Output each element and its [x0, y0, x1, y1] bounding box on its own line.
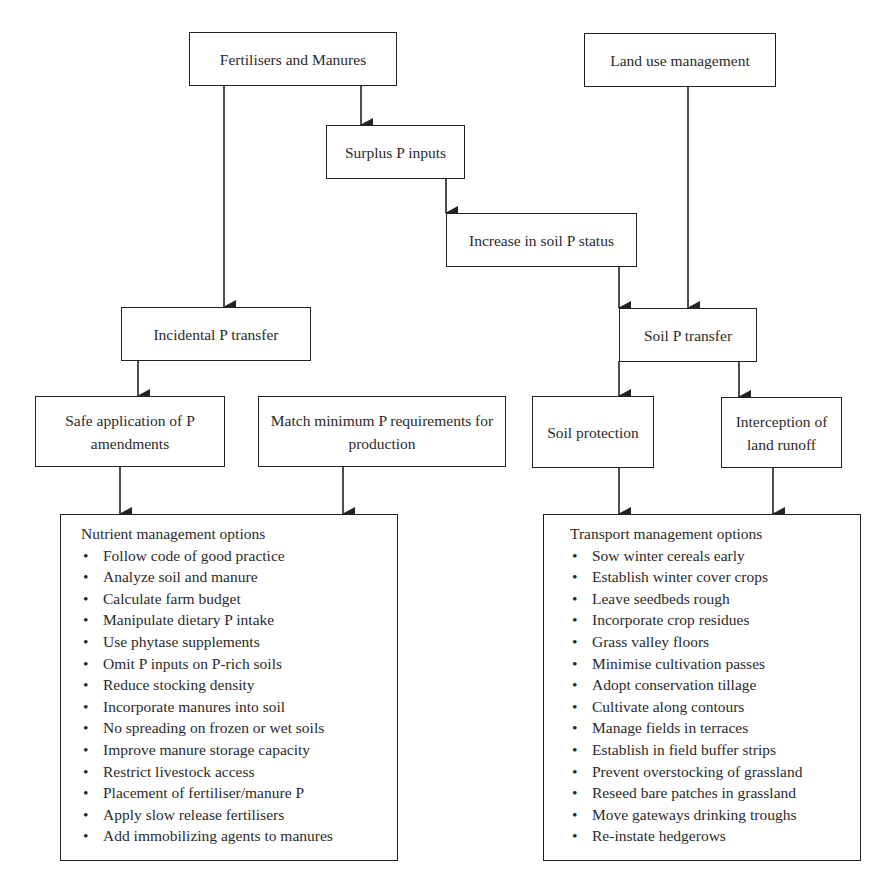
node-incidental-p-transfer: Incidental P transfer: [121, 307, 311, 361]
node-label: Increase in soil P status: [469, 229, 614, 252]
node-fertilisers-and-manures: Fertilisers and Manures: [189, 32, 397, 86]
bullet-icon: •: [83, 566, 88, 588]
node-label: Incidental P transfer: [153, 323, 278, 346]
node-increase-soil-p-status: Increase in soil P status: [446, 213, 637, 267]
bullet-icon: •: [83, 717, 88, 739]
bullet-icon: •: [572, 674, 577, 696]
node-label: Safe application of P amendments: [52, 409, 208, 455]
node-label: Fertilisers and Manures: [220, 48, 366, 71]
node-soil-protection: Soil protection: [532, 396, 654, 468]
list-item: •Improve manure storage capacity: [81, 739, 387, 761]
bullet-icon: •: [572, 609, 577, 631]
bullet-icon: •: [83, 804, 88, 826]
node-label: Soil protection: [547, 421, 639, 444]
bullet-icon: •: [83, 674, 88, 696]
node-label: Surplus P inputs: [345, 141, 446, 164]
list-item: •Follow code of good practice: [81, 545, 387, 567]
node-label: Interception of land runoff: [730, 410, 833, 456]
list-item: •Apply slow release fertilisers: [81, 804, 387, 826]
list-item: •Restrict livestock access: [81, 761, 387, 783]
list-item: •Leave seedbeds rough: [570, 588, 850, 610]
list-item: •Move gateways drinking troughs: [570, 804, 850, 826]
list-item: •Prevent overstocking of grassland: [570, 761, 850, 783]
bullet-icon: •: [83, 739, 88, 761]
nutrient-box-title: Nutrient management options: [81, 523, 387, 545]
bullet-icon: •: [572, 653, 577, 675]
bullet-icon: •: [572, 717, 577, 739]
bullet-icon: •: [572, 696, 577, 718]
bullet-icon: •: [572, 739, 577, 761]
bullet-icon: •: [83, 653, 88, 675]
list-item: •Cultivate along contours: [570, 696, 850, 718]
list-item: •Calculate farm budget: [81, 588, 387, 610]
list-item: •Analyze soil and manure: [81, 566, 387, 588]
bullet-icon: •: [83, 761, 88, 783]
transport-options-list: •Sow winter cereals early •Establish win…: [570, 545, 850, 847]
bullet-icon: •: [572, 761, 577, 783]
node-safe-application: Safe application of P amendments: [35, 396, 225, 467]
bullet-icon: •: [572, 545, 577, 567]
node-land-use-management: Land use management: [584, 33, 776, 87]
list-item: •Use phytase supplements: [81, 631, 387, 653]
list-item: •No spreading on frozen or wet soils: [81, 717, 387, 739]
node-label: Match minimum P requirements for product…: [265, 409, 499, 455]
list-item: •Sow winter cereals early: [570, 545, 850, 567]
transport-management-box: Transport management options •Sow winter…: [543, 514, 861, 861]
list-item: •Re-instate hedgerows: [570, 825, 850, 847]
list-item: •Reduce stocking density: [81, 674, 387, 696]
bullet-icon: •: [83, 696, 88, 718]
node-label: Soil P transfer: [644, 324, 732, 347]
bullet-icon: •: [572, 782, 577, 804]
list-item: •Adopt conservation tillage: [570, 674, 850, 696]
list-item: •Omit P inputs on P-rich soils: [81, 653, 387, 675]
bullet-icon: •: [572, 566, 577, 588]
nutrient-management-box: Nutrient management options •Follow code…: [60, 514, 398, 861]
list-item: •Reseed bare patches in grassland: [570, 782, 850, 804]
list-item: •Incorporate crop residues: [570, 609, 850, 631]
list-item: •Grass valley floors: [570, 631, 850, 653]
bullet-icon: •: [83, 782, 88, 804]
list-item: •Manage fields in terraces: [570, 717, 850, 739]
nutrient-options-list: •Follow code of good practice •Analyze s…: [81, 545, 387, 847]
bullet-icon: •: [572, 631, 577, 653]
bullet-icon: •: [572, 825, 577, 847]
list-item: •Minimise cultivation passes: [570, 653, 850, 675]
bullet-icon: •: [83, 631, 88, 653]
list-item: •Incorporate manures into soil: [81, 696, 387, 718]
bullet-icon: •: [83, 588, 88, 610]
transport-box-title: Transport management options: [570, 523, 850, 545]
bullet-icon: •: [572, 804, 577, 826]
list-item: •Establish winter cover crops: [570, 566, 850, 588]
node-label: Land use management: [610, 49, 749, 72]
bullet-icon: •: [83, 825, 88, 847]
node-match-minimum-p: Match minimum P requirements for product…: [258, 396, 506, 467]
node-interception-land-runoff: Interception of land runoff: [721, 397, 842, 468]
list-item: •Placement of fertiliser/manure P: [81, 782, 387, 804]
list-item: •Establish in field buffer strips: [570, 739, 850, 761]
node-soil-p-transfer: Soil P transfer: [619, 308, 757, 362]
list-item: •Manipulate dietary P intake: [81, 609, 387, 631]
list-item: •Add immobilizing agents to manures: [81, 825, 387, 847]
bullet-icon: •: [572, 588, 577, 610]
bullet-icon: •: [83, 609, 88, 631]
node-surplus-p-inputs: Surplus P inputs: [326, 125, 465, 179]
bullet-icon: •: [83, 545, 88, 567]
